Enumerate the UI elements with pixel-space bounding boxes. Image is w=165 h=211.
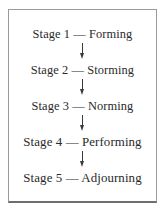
arrow-down-icon [79, 79, 87, 97]
flow-step-stage-2: Stage 2 — Storming [9, 64, 156, 77]
arrow-down-icon [79, 43, 87, 61]
flow-step-stage-3: Stage 3 — Norming [9, 100, 156, 113]
flow-step-stage-5: Stage 5 — Adjourning [9, 172, 156, 185]
diagram-frame: Stage 1 — Forming Stage 2 — Storming Sta… [8, 9, 157, 203]
flow-step-list: Stage 1 — Forming Stage 2 — Storming Sta… [9, 10, 156, 201]
arrow-down-icon [79, 115, 87, 133]
arrow-head [80, 125, 84, 131]
arrow-head [80, 89, 84, 95]
flow-step-stage-1: Stage 1 — Forming [9, 28, 156, 41]
arrow-head [80, 53, 84, 59]
arrow-down-icon [79, 151, 87, 169]
arrow-head [80, 161, 84, 167]
flow-step-stage-4: Stage 4 — Performing [9, 136, 156, 149]
